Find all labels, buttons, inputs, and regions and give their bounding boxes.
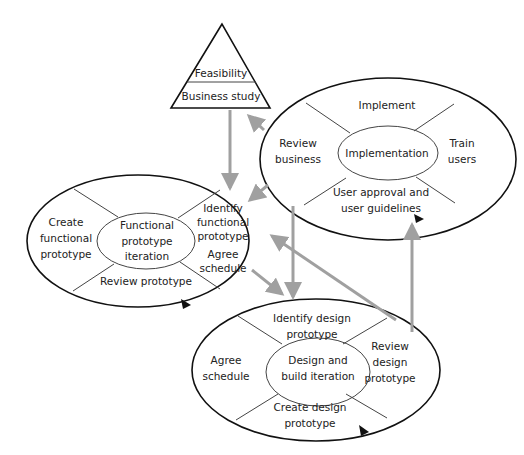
- business-study-label: Business study: [182, 89, 261, 104]
- design-center-line2: build iteration: [281, 369, 355, 384]
- create-functional-line2: functional: [40, 231, 92, 246]
- create-design-line1: Create design: [273, 400, 346, 415]
- create-functional-line3: prototype: [40, 247, 91, 262]
- functional-center-line1: Functional: [120, 218, 174, 233]
- create-functional-line1: Create: [49, 215, 84, 230]
- implementation-center-label: Implementation: [345, 146, 428, 161]
- train-users-label-line1: Train: [449, 136, 474, 151]
- agree-schedule-design-line1: Agree: [211, 353, 242, 368]
- review-business-label-line1: Review: [279, 136, 316, 151]
- arrow-implementation-to-feasibility: [249, 116, 264, 130]
- identify-functional-line1: Identify: [203, 201, 243, 216]
- functional-center-line3: iteration: [125, 249, 169, 264]
- review-prototype-label: Review prototype: [100, 274, 192, 289]
- create-design-line2: prototype: [284, 416, 335, 431]
- user-approval-label-line1: User approval and: [333, 185, 429, 200]
- feasibility-label: Feasibility: [195, 66, 248, 81]
- review-design-line2: design: [373, 355, 408, 370]
- identify-functional-line3: prototype: [197, 229, 248, 244]
- review-design-line1: Review: [371, 339, 408, 354]
- user-approval-label-line2: user guidelines: [341, 201, 421, 216]
- arrow-functional-to-design: [252, 270, 282, 294]
- arrow-implementation-to-functional: [250, 185, 268, 200]
- agree-schedule-line2: schedule: [199, 261, 246, 276]
- implement-label: Implement: [359, 98, 416, 113]
- identify-design-line1: Identify design: [273, 311, 351, 326]
- identify-functional-line2: functional: [197, 215, 249, 230]
- design-center-line1: Design and: [288, 353, 347, 368]
- agree-schedule-design-line2: schedule: [202, 369, 249, 384]
- review-business-label-line2: business: [275, 152, 321, 167]
- identify-design-line2: prototype: [286, 327, 337, 342]
- dsdm-lifecycle-diagram: Feasibility Business study Implement Imp…: [0, 0, 524, 455]
- functional-center-line2: prototype: [121, 234, 172, 249]
- review-design-line3: prototype: [364, 371, 415, 386]
- agree-schedule-line1: Agree: [208, 247, 239, 262]
- train-users-label-line2: users: [448, 152, 476, 167]
